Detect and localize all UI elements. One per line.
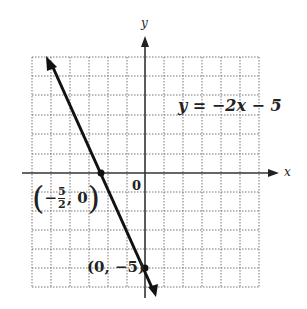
equation-label: y = −2x − 5 <box>178 96 282 115</box>
y-axis-label: y <box>141 16 148 30</box>
x-intercept-label: ( − 5 2 , 0 ) <box>32 182 100 214</box>
x-axis-arrow <box>268 169 279 177</box>
graph-line <box>51 63 153 290</box>
x-intercept-point <box>98 170 105 177</box>
line-arrow-bottom <box>148 284 158 297</box>
coordinate-plane <box>0 0 307 309</box>
x-axis-label: x <box>284 165 291 179</box>
origin-label: 0 <box>132 178 141 193</box>
y-intercept-label: (0, −5) <box>87 258 145 276</box>
y-axis-arrow <box>141 36 149 47</box>
